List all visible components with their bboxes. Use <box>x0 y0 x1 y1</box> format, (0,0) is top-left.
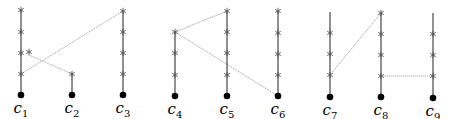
dotted-edge <box>175 11 227 32</box>
chain-root-dot <box>120 92 127 99</box>
star-marker-icon <box>224 50 230 56</box>
star-marker-icon <box>275 51 281 57</box>
chain-root-dot <box>224 93 231 100</box>
chain-root-dot <box>275 93 282 100</box>
star-marker-icon <box>275 8 281 14</box>
star-marker-icon <box>120 50 126 56</box>
chain-label-c4: c4 <box>168 102 183 119</box>
star-marker-icon <box>378 10 384 16</box>
star-marker-icon <box>18 7 24 13</box>
label-subscript: 9 <box>434 111 440 119</box>
star-marker-icon <box>378 73 384 79</box>
star-marker-icon <box>69 71 75 77</box>
chain-root-dot <box>18 92 25 99</box>
label-subscript: 7 <box>331 110 337 119</box>
label-subscript: 4 <box>176 109 182 119</box>
star-marker-icon <box>172 50 178 56</box>
chain-label-c9: c9 <box>426 104 441 119</box>
label-subscript: 1 <box>22 108 28 119</box>
chain-root-dot <box>69 92 76 99</box>
star-marker-icon <box>172 72 178 78</box>
chain-diagram: c1c2c3c4c5c6c7c8c9 <box>0 0 455 119</box>
dotted-edge <box>330 13 381 75</box>
chain-root-dot <box>430 95 437 102</box>
star-marker-icon <box>18 71 24 77</box>
chain-label-c7: c7 <box>323 103 338 119</box>
star-marker-icon <box>18 29 24 35</box>
label-subscript: 8 <box>382 110 388 119</box>
star-marker-icon <box>26 49 32 55</box>
chain-label-c5: c5 <box>220 102 235 119</box>
chain-label-c3: c3 <box>116 101 131 119</box>
star-marker-icon <box>327 30 333 36</box>
chain-label-c1: c1 <box>14 101 29 119</box>
star-marker-icon <box>430 31 436 37</box>
star-marker-icon <box>224 72 230 78</box>
star-marker-icon <box>224 29 230 35</box>
star-marker-icon <box>275 30 281 36</box>
star-marker-icon <box>378 52 384 58</box>
star-marker-icon <box>120 8 126 14</box>
star-marker-icon <box>120 29 126 35</box>
star-marker-icon <box>378 31 384 37</box>
chain-root-dot <box>327 94 334 101</box>
chain-label-c2: c2 <box>65 101 80 119</box>
star-marker-icon <box>275 72 281 78</box>
dotted-edge <box>29 55 72 74</box>
star-marker-icon <box>172 29 178 35</box>
label-subscript: 5 <box>228 109 234 119</box>
star-marker-icon <box>327 51 333 57</box>
chain-label-c8: c8 <box>374 103 389 119</box>
chain-root-dot <box>172 93 179 100</box>
dotted-edge <box>21 11 123 74</box>
chain-root-dot <box>378 94 385 101</box>
star-marker-icon <box>430 52 436 58</box>
label-subscript: 6 <box>279 109 285 119</box>
star-marker-icon <box>224 8 230 14</box>
star-marker-icon <box>18 50 24 56</box>
chain-label-c6: c6 <box>271 102 286 119</box>
label-subscript: 2 <box>73 108 79 119</box>
label-subscript: 3 <box>124 108 130 119</box>
star-marker-icon <box>120 71 126 77</box>
